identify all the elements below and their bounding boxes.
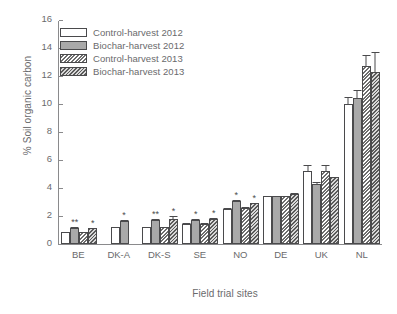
y-tick-label: 10 bbox=[12, 97, 52, 108]
y-tick-label: 0 bbox=[12, 237, 52, 248]
error-bar bbox=[307, 165, 308, 173]
x-tick-label: NL bbox=[342, 249, 383, 260]
bar-biochar_2012[interactable]: * bbox=[232, 201, 241, 244]
error-bar bbox=[173, 216, 174, 220]
chart-figure: % Soil organic carbon Field trial sites … bbox=[0, 0, 397, 314]
legend-label: Control-harvest 2012 bbox=[93, 27, 183, 38]
error-bar bbox=[245, 207, 246, 209]
bar-control_2012[interactable] bbox=[223, 209, 232, 244]
significance-marker: * bbox=[234, 192, 238, 198]
y-tick-label: 2 bbox=[12, 209, 52, 220]
bar-control_2012[interactable] bbox=[182, 224, 191, 244]
x-tick-label: DK-S bbox=[139, 249, 180, 260]
y-tick-label: 8 bbox=[12, 125, 52, 136]
error-bar bbox=[316, 182, 317, 185]
bar-biochar_2012[interactable]: ** bbox=[70, 228, 79, 244]
bar-biochar_2013[interactable] bbox=[371, 72, 380, 244]
bar-biochar_2012[interactable] bbox=[272, 196, 281, 244]
legend-swatch bbox=[60, 54, 87, 63]
x-tick-label: DE bbox=[261, 249, 302, 260]
bar-control_2012[interactable] bbox=[263, 196, 272, 244]
bar-biochar_2012[interactable]: ** bbox=[151, 220, 160, 244]
x-tick-label: UK bbox=[301, 249, 342, 260]
bar-biochar_2012[interactable]: * bbox=[120, 221, 129, 244]
error-bar bbox=[227, 208, 228, 210]
bar-biochar_2012[interactable] bbox=[312, 184, 321, 244]
x-tick-label: SE bbox=[180, 249, 221, 260]
x-tick-label: DK-A bbox=[99, 249, 140, 260]
legend-label: Biochar-harvest 2013 bbox=[93, 66, 184, 77]
bar-biochar_2013[interactable] bbox=[330, 177, 339, 244]
bar-control_2012[interactable] bbox=[303, 171, 312, 244]
bar-group bbox=[261, 21, 301, 244]
bar-control_2012[interactable] bbox=[61, 232, 70, 244]
x-tick-label: NO bbox=[220, 249, 261, 260]
legend-label: Biochar-harvest 2012 bbox=[93, 40, 184, 51]
significance-marker: * bbox=[212, 210, 216, 216]
bar-control_2013[interactable] bbox=[321, 171, 330, 244]
error-bar bbox=[325, 165, 326, 172]
x-tick-label: BE bbox=[58, 249, 99, 260]
error-bar bbox=[276, 196, 277, 197]
significance-marker: * bbox=[172, 208, 176, 214]
error-bar bbox=[366, 55, 367, 68]
x-axis-tick-labels: BEDK-ADK-SSENODEUKNL bbox=[58, 249, 382, 260]
error-bar bbox=[195, 219, 196, 220]
error-bar bbox=[115, 227, 116, 228]
error-bar bbox=[146, 227, 147, 229]
significance-marker: ** bbox=[152, 211, 159, 217]
legend-item-control_2012[interactable]: Control-harvest 2012 bbox=[60, 26, 184, 38]
bar-control_2012[interactable] bbox=[344, 104, 353, 244]
significance-marker: * bbox=[122, 212, 126, 218]
bar-control_2013[interactable] bbox=[160, 227, 169, 244]
error-bar bbox=[294, 193, 295, 194]
bar-control_2012[interactable] bbox=[142, 227, 151, 244]
legend-swatch bbox=[60, 67, 87, 76]
legend-swatch bbox=[60, 41, 87, 50]
error-bar bbox=[92, 228, 93, 229]
error-bar bbox=[334, 177, 335, 178]
legend-item-control_2013[interactable]: Control-harvest 2013 bbox=[60, 52, 184, 64]
y-tick-label: 16 bbox=[12, 13, 52, 24]
error-bar bbox=[285, 196, 286, 197]
bar-biochar_2012[interactable] bbox=[353, 98, 362, 244]
bar-group: ** bbox=[221, 21, 261, 244]
error-bar bbox=[357, 90, 358, 100]
error-bar bbox=[213, 218, 214, 220]
bar-control_2013[interactable] bbox=[362, 66, 371, 244]
bar-control_2012[interactable] bbox=[111, 227, 120, 244]
legend-item-biochar_2012[interactable]: Biochar-harvest 2012 bbox=[60, 39, 184, 51]
bar-group bbox=[301, 21, 341, 244]
error-bar bbox=[164, 227, 165, 229]
error-bar bbox=[74, 227, 75, 229]
bar-control_2013[interactable] bbox=[281, 196, 290, 244]
error-bar bbox=[155, 219, 156, 221]
x-axis-title: Field trial sites bbox=[60, 288, 390, 299]
significance-marker: * bbox=[194, 211, 198, 217]
bar-group bbox=[342, 21, 382, 244]
error-bar bbox=[65, 232, 66, 233]
significance-marker: * bbox=[91, 220, 95, 226]
bar-biochar_2013[interactable]: * bbox=[169, 219, 178, 244]
error-bar bbox=[375, 52, 376, 73]
bar-control_2013[interactable] bbox=[241, 208, 250, 244]
legend-swatch bbox=[60, 28, 87, 37]
bar-biochar_2013[interactable]: * bbox=[250, 203, 259, 244]
bar-biochar_2013[interactable]: * bbox=[209, 219, 218, 244]
legend-item-biochar_2013[interactable]: Biochar-harvest 2013 bbox=[60, 65, 184, 77]
error-bar bbox=[204, 223, 205, 224]
error-bar bbox=[254, 203, 255, 205]
error-bar bbox=[83, 232, 84, 233]
significance-marker: ** bbox=[71, 219, 78, 225]
error-bar bbox=[124, 220, 125, 222]
error-bar bbox=[236, 200, 237, 202]
bar-control_2013[interactable] bbox=[79, 232, 88, 244]
y-tick-label: 12 bbox=[12, 69, 52, 80]
bar-biochar_2013[interactable]: * bbox=[88, 228, 97, 244]
bar-control_2013[interactable] bbox=[200, 224, 209, 244]
error-bar bbox=[348, 97, 349, 105]
bar-biochar_2012[interactable]: * bbox=[191, 220, 200, 245]
legend-label: Control-harvest 2013 bbox=[93, 53, 183, 64]
bar-biochar_2013[interactable] bbox=[290, 194, 299, 244]
chart-legend: Control-harvest 2012Biochar-harvest 2012… bbox=[60, 26, 184, 78]
